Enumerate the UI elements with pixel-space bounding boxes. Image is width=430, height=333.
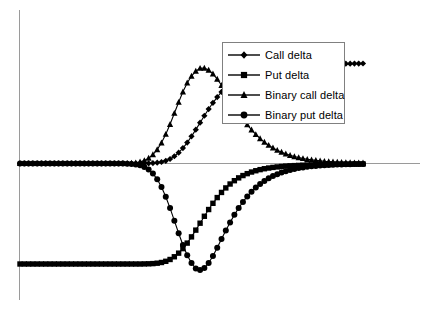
data-point-marker: [154, 146, 160, 152]
data-point-marker: [202, 214, 207, 219]
series-put-delta: [17, 161, 365, 266]
data-point-marker: [201, 265, 207, 271]
legend-label: Binary put delta: [265, 110, 343, 121]
data-point-marker: [210, 201, 215, 206]
legend-label: Put delta: [265, 70, 309, 81]
data-point-marker: [266, 142, 272, 148]
data-point-marker: [236, 205, 242, 211]
data-point-marker: [223, 228, 229, 234]
data-point-marker: [163, 131, 169, 137]
data-point-marker: [167, 205, 173, 211]
data-point-marker: [158, 140, 164, 146]
data-point-marker: [210, 253, 216, 259]
data-point-marker: [360, 60, 366, 66]
data-point-marker: [206, 106, 212, 112]
delta-chart: Call delta Put delta Binary call delta: [0, 0, 430, 333]
legend-item-call-delta: Call delta: [227, 45, 312, 65]
data-point-marker: [360, 161, 366, 167]
series-line: [20, 164, 363, 264]
triangle-marker-icon: [227, 86, 261, 104]
data-point-marker: [150, 171, 156, 177]
plot-area: [0, 0, 430, 333]
data-point-marker: [180, 89, 186, 95]
data-point-marker: [184, 252, 190, 258]
data-point-marker: [244, 193, 250, 199]
axis-lines: [19, 10, 420, 300]
data-point-marker: [154, 176, 160, 182]
data-point-marker: [189, 260, 195, 266]
data-point-marker: [176, 230, 182, 236]
data-point-marker: [193, 127, 199, 133]
chart-legend: Call delta Put delta Binary call delta: [222, 42, 345, 124]
data-point-marker: [197, 120, 203, 126]
legend-item-binary-put-delta: Binary put delta: [227, 105, 343, 125]
data-point-marker: [184, 80, 190, 86]
legend-label: Binary call delta: [265, 90, 344, 101]
diamond-marker-icon: [227, 46, 261, 64]
data-point-marker: [231, 212, 237, 218]
circle-marker-icon: [227, 106, 261, 124]
data-point-marker: [176, 99, 182, 105]
data-point-marker: [197, 221, 202, 226]
legend-list: Call delta Put delta Binary call delta: [223, 43, 344, 123]
data-point-marker: [215, 195, 220, 200]
data-point-marker: [158, 184, 164, 190]
data-point-marker: [214, 245, 220, 251]
legend-item-put-delta: Put delta: [227, 65, 309, 85]
data-point-marker: [240, 199, 246, 205]
data-point-marker: [219, 236, 225, 242]
legend-item-binary-call-delta: Binary call delta: [227, 85, 344, 105]
data-point-marker: [163, 194, 169, 200]
data-point-marker: [227, 219, 233, 225]
data-point-marker: [171, 110, 177, 116]
data-point-marker: [189, 234, 194, 239]
data-point-marker: [201, 113, 207, 119]
data-point-marker: [206, 207, 211, 212]
series-line: [20, 164, 363, 271]
data-point-marker: [171, 218, 177, 224]
data-point-marker: [167, 121, 173, 127]
data-point-marker: [188, 133, 194, 139]
legend-label: Call delta: [265, 50, 312, 61]
data-point-marker: [193, 227, 198, 232]
series-binary-put-delta: [17, 161, 366, 274]
data-point-marker: [180, 242, 186, 248]
square-marker-icon: [227, 66, 261, 84]
data-point-marker: [206, 260, 212, 266]
